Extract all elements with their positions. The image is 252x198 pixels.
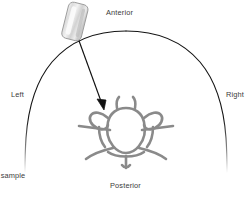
- probe[interactable]: [61, 1, 89, 42]
- label-posterior: Posterior: [110, 182, 141, 189]
- needle-shaft: [78, 38, 102, 104]
- needle-probe-layer: [0, 0, 252, 198]
- label-anterior: Anterior: [106, 9, 133, 16]
- label-biopsy-sample: ry sample: [0, 172, 25, 179]
- needle-arrowhead: [97, 99, 106, 110]
- label-left: Left: [11, 91, 24, 98]
- diagram-canvas: Anterior Posterior Left Right ry sample: [0, 0, 252, 198]
- label-right: Right: [226, 91, 244, 98]
